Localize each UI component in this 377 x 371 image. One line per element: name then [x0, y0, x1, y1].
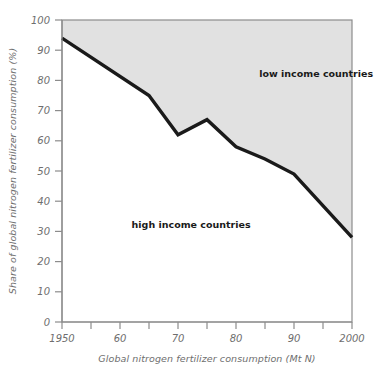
x-tick-label-1990: 90: [288, 333, 301, 344]
y-tick-label-20: 20: [37, 256, 50, 267]
y-axis-ticks: [55, 20, 62, 322]
nitrogen-fertilizer-share-chart: 100 90 80 70 60 50 40 30 20 10 0 Share o…: [0, 0, 377, 371]
y-axis-title: Share of global nitrogen fertilizer cons…: [7, 48, 18, 294]
x-tick-label-1970: 70: [172, 333, 185, 344]
x-tick-label-1960: 60: [114, 333, 127, 344]
high-income-countries-label: high income countries: [132, 219, 251, 230]
y-tick-label-10: 10: [37, 286, 50, 297]
y-axis-tick-labels: 100 90 80 70 60 50 40 30 20 10 0: [31, 15, 50, 328]
chart-figure: 100 90 80 70 60 50 40 30 20 10 0 Share o…: [0, 0, 377, 371]
x-tick-label-2000: 2000: [339, 333, 364, 344]
x-axis-title: Global nitrogen fertilizer consumption (…: [98, 353, 315, 364]
y-tick-label-0: 0: [44, 317, 50, 328]
y-tick-label-30: 30: [37, 226, 50, 237]
y-tick-label-50: 50: [37, 166, 50, 177]
y-tick-label-80: 80: [37, 75, 50, 86]
low-income-countries-label: low income countries: [259, 68, 373, 79]
y-tick-label-40: 40: [37, 196, 50, 207]
y-tick-label-100: 100: [31, 15, 50, 26]
x-tick-label-1980: 80: [230, 333, 243, 344]
x-axis-ticks: [62, 322, 352, 329]
x-axis-tick-labels: 1950 60 70 80 90 2000: [49, 333, 364, 344]
x-tick-label-1950: 1950: [49, 333, 74, 344]
y-tick-label-60: 60: [37, 135, 50, 146]
y-tick-label-70: 70: [37, 105, 50, 116]
y-tick-label-90: 90: [37, 45, 50, 56]
